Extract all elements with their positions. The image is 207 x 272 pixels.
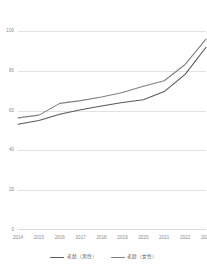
plot-area	[18, 31, 206, 230]
line-chart: 100 80 60 40 20 0 2014201520162017201820…	[0, 0, 207, 272]
x-axis-tick-label: 2015	[34, 236, 44, 241]
y-axis-tick-label: 40	[9, 148, 14, 153]
legend-line-swatch	[50, 257, 64, 259]
legend-label: 老龄（男性）	[67, 255, 97, 260]
x-axis-tick-label: 2021	[159, 236, 169, 241]
legend-label: 老龄（女性）	[127, 255, 157, 260]
legend-item-1[interactable]: 老龄（男性）	[50, 255, 97, 260]
chart-legend: 老龄（男性）老龄（女性）	[0, 255, 207, 260]
y-axis-tick-label: 100	[6, 29, 14, 34]
x-axis-tick-label: 2019	[117, 236, 127, 241]
x-axis-tick-label: 2020	[138, 236, 148, 241]
x-axis-tick-label: 2014	[13, 236, 23, 241]
x-axis-tick-label: 2016	[55, 236, 65, 241]
x-axis-tick-label: 2018	[96, 236, 106, 241]
series-line-1	[18, 47, 206, 124]
y-axis: 100 80 60 40 20 0	[0, 31, 16, 230]
x-axis-tick-label: 2017	[76, 236, 86, 241]
series-lines	[18, 31, 206, 230]
y-axis-tick-label: 80	[9, 69, 14, 74]
legend-item-2[interactable]: 老龄（女性）	[111, 255, 158, 260]
y-axis-tick-label: 20	[9, 188, 14, 193]
y-axis-tick-label: 0	[11, 228, 14, 233]
series-line-2	[18, 39, 206, 118]
legend-line-swatch	[111, 257, 125, 259]
y-axis-tick-label: 60	[9, 108, 14, 113]
x-axis: 2014201520162017201820192020202120222023	[18, 236, 206, 245]
x-axis-tick-label: 2022	[180, 236, 190, 241]
x-axis-tick-label: 2023	[201, 236, 207, 241]
